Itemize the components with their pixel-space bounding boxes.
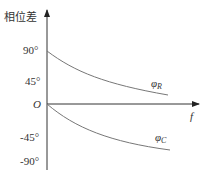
phi-c-label: φC (155, 131, 167, 145)
phase-chart: 相位差 f O 90° 45° -45° -90° φR φC (0, 0, 210, 177)
y-tick-neg90: -90° (20, 155, 39, 167)
y-tick-90: 90° (23, 44, 38, 56)
y-axis-label: 相位差 (4, 10, 37, 24)
phi-r-label: φR (151, 77, 162, 91)
origin-label: O (33, 98, 41, 110)
y-tick-neg45: -45° (20, 131, 39, 143)
y-tick-45: 45° (25, 75, 40, 87)
x-axis-label: f (190, 110, 195, 122)
phi-c-curve (47, 104, 170, 150)
phi-r-curve (47, 51, 168, 95)
